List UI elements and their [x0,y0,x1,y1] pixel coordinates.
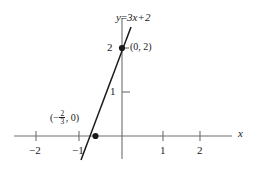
graph-figure: y=3x+2 2 1 (0, 2) (−23, 0) −2 −1 1 2 x [0,0,264,171]
point-x-intercept [92,133,98,139]
equation-label: y=3x+2 [116,12,150,23]
fraction-numerator: 2 [59,110,65,118]
y-tick-label-1: 1 [110,86,116,97]
minus-sign: − [53,112,59,123]
point-label-x-intercept: (−23, 0) [50,110,79,127]
point-label-y-intercept: (0, 2) [130,42,152,52]
x-tick-label-minus2: −2 [29,145,41,156]
label-rest: , 0) [66,112,79,123]
point-y-intercept [119,45,125,51]
x-tick-label-minus1: −1 [72,145,84,156]
x-tick-label-1: 1 [160,145,166,156]
y-tick-label-2: 2 [107,42,113,53]
fraction-two-thirds: 23 [59,110,65,127]
fraction-denominator: 3 [59,117,65,126]
x-tick-label-2: 2 [197,145,203,156]
equation-rhs: 3x+2 [127,11,150,23]
x-axis-label: x [238,128,243,139]
